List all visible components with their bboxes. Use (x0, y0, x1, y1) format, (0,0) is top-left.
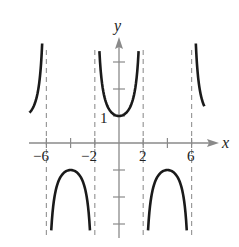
curve-branch-right-upper (196, 44, 204, 107)
y-tick-label-1: 1 (100, 110, 108, 126)
curve-branch-left-upper (29, 44, 42, 113)
x-tick-label-neg2: −2 (81, 148, 97, 164)
x-axis-label: x (221, 134, 229, 151)
x-tick-label-6: 6 (187, 148, 195, 164)
x-tick-label-2: 2 (139, 148, 147, 164)
curve-branch-right-lower (148, 170, 187, 230)
secant-graph: x y −6 −2 2 6 1 (0, 0, 239, 247)
x-tick-label-neg6: −6 (33, 148, 49, 164)
function-curves (29, 44, 204, 231)
curve-branch-left-lower (51, 170, 90, 230)
y-axis-label: y (112, 17, 122, 35)
